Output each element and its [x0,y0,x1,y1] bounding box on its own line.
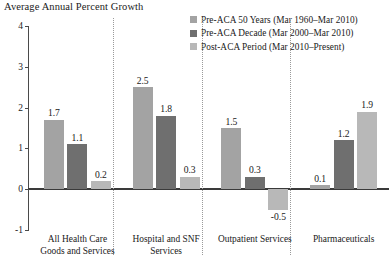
bar-value-label: 1.8 [146,103,186,114]
bar [268,189,288,209]
legend-item-label: Pre-ACA 50 Years (Mar 1960–Mar 2010) [201,15,358,25]
bar-value-label: 1.1 [57,132,97,143]
bar-value-label: 0.3 [170,164,210,175]
bar [156,116,176,189]
bar-value-label: 2.5 [123,75,163,86]
bar [67,144,87,189]
category-label-line: Hospital and SNF [116,234,216,246]
y-axis-tick-label: -1 [15,225,23,235]
y-axis-tick-mark [25,230,29,231]
category-label: Pharmaceuticals [294,234,389,246]
bar-value-label: 1.5 [211,116,251,127]
category-label-line: Goods and Services [27,246,127,258]
y-axis-tick-mark [25,148,29,149]
bar [357,112,377,190]
y-axis-tick-mark [25,189,29,190]
bar [221,128,241,189]
y-axis-tick-mark [25,108,29,109]
bar-value-label: 1.9 [347,99,387,110]
category-label: Outpatient Services [205,234,305,246]
bar-value-label: 1.7 [34,107,74,118]
category-label: Hospital and SNFServices [116,234,216,257]
y-axis-tick-label: 0 [18,184,23,194]
bar [91,181,111,189]
bar [180,177,200,189]
legend-item: Pre-ACA 50 Years (Mar 1960–Mar 2010) [190,13,388,27]
category-label-line: Services [116,246,216,258]
chart-title: Average Annual Percent Growth [4,1,143,12]
bar-chart: Average Annual Percent Growth Pre-ACA 50… [0,0,389,262]
y-axis-tick-mark [25,26,29,27]
y-axis-line [28,26,29,230]
bar-value-label: -0.5 [258,211,298,222]
y-axis-tick-label: 3 [18,62,23,72]
y-axis-tick-label: 1 [18,143,23,153]
group-divider [113,18,114,255]
y-axis-tick-label: 4 [18,21,23,31]
bar-value-label: 0.3 [235,164,275,175]
bar [44,120,64,189]
plot-area: 43210-1 1.71.10.22.51.80.31.50.3-0.50.11… [28,26,389,230]
category-label-line: Pharmaceuticals [294,234,389,246]
category-label: All Health CareGoods and Services [27,234,127,257]
category-label-line: Outpatient Services [205,234,305,246]
y-axis-tick-mark [25,67,29,68]
category-label-line: All Health Care [27,234,127,246]
group-divider [202,18,203,255]
bar [310,185,330,189]
bar-value-label: 0.2 [81,169,121,180]
y-axis-tick-label: 2 [18,103,23,113]
bar [245,177,265,189]
bar [334,140,354,189]
legend-swatch-icon [190,16,197,23]
